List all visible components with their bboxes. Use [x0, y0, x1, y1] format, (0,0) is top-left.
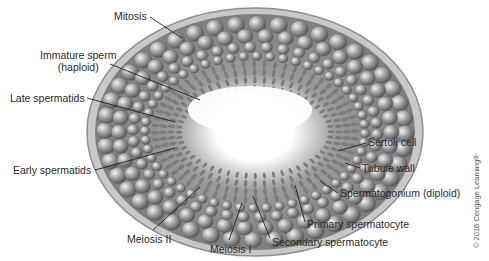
label-sertoli-cell: Sertoli cell [368, 136, 416, 148]
tubule-illustration [0, 0, 489, 261]
label-primary-spermatocyte: Primary spermatocyte [307, 218, 409, 230]
label-late-spermatids: Late spermatids [10, 92, 85, 104]
lumen [188, 86, 312, 134]
label-early-spermatids: Early spermatids [13, 164, 91, 176]
copyright-notice: © 2016 Cengage Learning® [472, 154, 481, 248]
label-mitosis: Mitosis [114, 10, 147, 22]
label-tubule-wall: Tubule wall [362, 162, 415, 174]
label-meiosis-i: Meiosis I [210, 243, 251, 255]
diagram-canvas: MitosisImmature sperm(haploid)Late sperm… [0, 0, 489, 261]
label-secondary-spermatocyte: Secondary spermatocyte [272, 236, 388, 248]
label-meiosis-ii: Meiosis II [127, 233, 171, 245]
label-immature-sperm: Immature sperm(haploid) [40, 49, 116, 73]
label-spermatogonium: Spermatogonium (diploid) [340, 187, 460, 199]
